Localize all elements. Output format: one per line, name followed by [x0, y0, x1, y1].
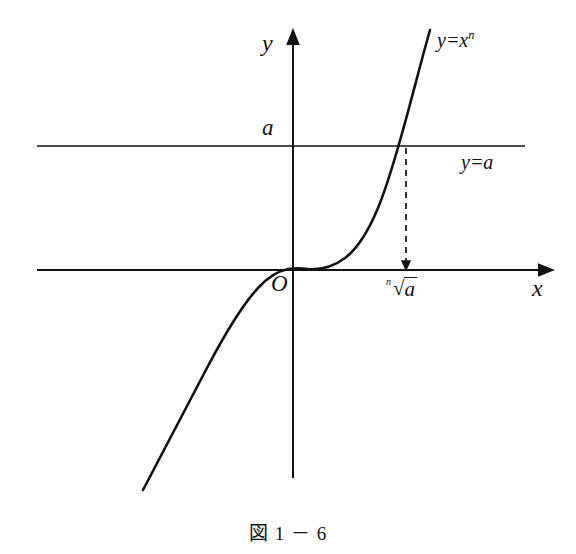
x-axis-label: x: [532, 276, 543, 300]
a-value-label: a: [262, 116, 274, 139]
figure-container: y x O a y=xn y=a n√a 図 1 － 6: [0, 0, 576, 554]
curve-y-equals-x-to-n: [143, 30, 430, 490]
plot-canvas: [0, 0, 576, 554]
curve-equation-label: y=xn: [437, 29, 474, 50]
line-equation-label: y=a: [461, 152, 493, 172]
radical-expression: n√a: [386, 276, 411, 299]
figure-caption: 図 1 － 6: [0, 518, 576, 545]
curve-equation-exponent: n: [468, 28, 474, 42]
origin-label: O: [271, 272, 288, 295]
nth-root-of-a-label: n√a: [386, 276, 411, 299]
y-axis-label: y: [262, 31, 273, 55]
radical-radicand: a: [404, 277, 418, 300]
curve-equation-base: y=x: [437, 29, 468, 51]
radical-index: n: [386, 277, 391, 287]
